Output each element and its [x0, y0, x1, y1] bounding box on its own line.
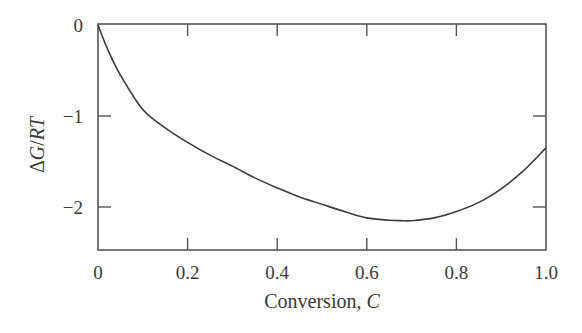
- data-line: [98, 25, 546, 221]
- x-tick-label: 0.4: [265, 262, 289, 283]
- x-tick-label: 1.0: [534, 262, 558, 283]
- plot-frame: [98, 24, 546, 250]
- x-tick-label: 0.6: [355, 262, 379, 283]
- x-axis-ticks: 00.20.40.60.81.0: [93, 24, 558, 283]
- x-tick-label: 0.2: [176, 262, 200, 283]
- x-tick-label: 0: [93, 262, 103, 283]
- x-axis-label: Conversion, C: [264, 290, 380, 312]
- y-axis-ticks: 0−1−2: [63, 15, 546, 218]
- y-tick-label: 0: [74, 15, 84, 36]
- y-axis-label: ΔG/RT: [26, 115, 48, 173]
- y-tick-label: −1: [63, 106, 83, 127]
- chart: 00.20.40.60.81.0 0−1−2 Conversion, C ΔG/…: [0, 0, 582, 333]
- y-tick-label: −2: [63, 197, 83, 218]
- x-tick-label: 0.8: [445, 262, 469, 283]
